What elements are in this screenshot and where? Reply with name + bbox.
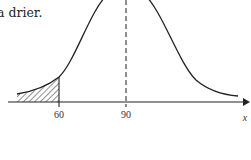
normal-distribution-chart: 60 90 x	[0, 0, 251, 160]
x-axis-arrow-icon	[243, 98, 250, 106]
tick-label-90: 90	[121, 109, 131, 120]
bell-curve	[17, 0, 238, 96]
tick-label-60: 60	[54, 109, 64, 120]
x-axis-label: x	[242, 112, 248, 123]
